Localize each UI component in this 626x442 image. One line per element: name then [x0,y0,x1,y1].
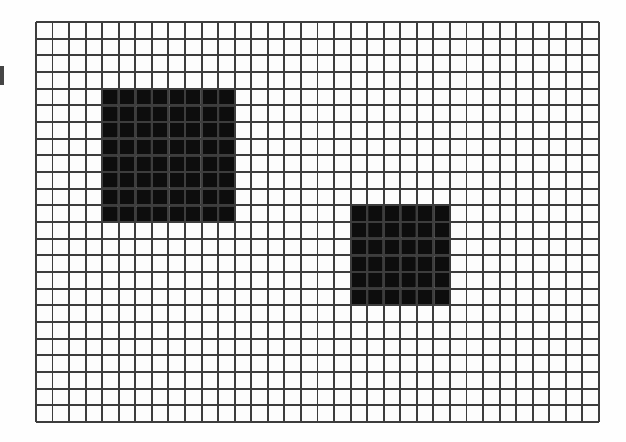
grid-figure [35,21,600,423]
grid-svg [35,21,600,423]
figure-canvas [0,0,626,442]
left-edge-mark-artifact [0,66,4,85]
